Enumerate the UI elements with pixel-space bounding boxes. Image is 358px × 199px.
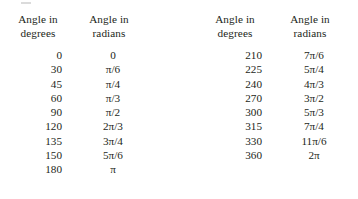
column-header-degrees: Angle in degrees	[6, 12, 70, 42]
table-row: 30 π/6	[6, 62, 158, 76]
table-row: 225 5π/4	[200, 62, 358, 76]
cell-degrees: 360	[200, 148, 270, 162]
cell-radians: π	[70, 162, 156, 176]
column-header-radians: Angle in radians	[70, 12, 148, 42]
table-row: 315 7π/4	[200, 119, 358, 133]
cell-radians: 2π/3	[70, 119, 156, 133]
cell-radians: π/4	[70, 77, 156, 91]
cell-degrees: 315	[200, 119, 270, 133]
column-header-degrees-line2: degrees	[200, 26, 270, 40]
cell-radians: 3π/4	[70, 134, 156, 148]
cell-degrees: 180	[6, 162, 70, 176]
table-body-left: 0 0 30 π/6 45 π/4 60 π/3 90 π/2 120 2π/3	[6, 48, 158, 177]
cell-degrees: 60	[6, 91, 70, 105]
column-header-radians-line2: radians	[270, 26, 350, 40]
column-header-degrees-line2: degrees	[6, 26, 70, 40]
header-row: Angle in degrees Angle in radians	[200, 12, 358, 42]
cell-radians: 5π/3	[270, 105, 358, 119]
cell-radians: 4π/3	[270, 77, 358, 91]
cell-degrees: 120	[6, 119, 70, 133]
column-header-radians-line2: radians	[70, 26, 148, 40]
table-row: 270 3π/2	[200, 91, 358, 105]
cell-radians: 7π/6	[270, 48, 358, 62]
table-row: 45 π/4	[6, 77, 158, 91]
table-row: 120 2π/3	[6, 119, 158, 133]
cell-radians: 2π	[270, 148, 358, 162]
table-block-left: Angle in degrees Angle in radians 0 0 30…	[6, 12, 158, 177]
table-block-right: Angle in degrees Angle in radians 210 7π…	[200, 12, 358, 162]
column-header-radians-line1: Angle in	[70, 12, 148, 26]
cell-radians: 0	[70, 48, 156, 62]
cell-degrees: 150	[6, 148, 70, 162]
cell-radians: 5π/6	[70, 148, 156, 162]
table-row: 360 2π	[200, 148, 358, 162]
cell-radians: π/2	[70, 105, 156, 119]
cell-degrees: 210	[200, 48, 270, 62]
table-row: 180 π	[6, 162, 158, 176]
cell-degrees: 330	[200, 134, 270, 148]
table-row: 150 5π/6	[6, 148, 158, 162]
column-header-degrees-line1: Angle in	[200, 12, 270, 26]
header-row: Angle in degrees Angle in radians	[6, 12, 158, 42]
cell-radians: π/6	[70, 62, 156, 76]
column-header-radians-line1: Angle in	[270, 12, 350, 26]
table-row: 300 5π/3	[200, 105, 358, 119]
table-row: 90 π/2	[6, 105, 158, 119]
table-row: 135 3π/4	[6, 134, 158, 148]
cell-radians: π/3	[70, 91, 156, 105]
cell-degrees: 240	[200, 77, 270, 91]
cell-radians: 5π/4	[270, 62, 358, 76]
cell-degrees: 90	[6, 105, 70, 119]
cell-degrees: 45	[6, 77, 70, 91]
column-header-radians: Angle in radians	[270, 12, 350, 42]
table-row: 0 0	[6, 48, 158, 62]
angle-conversion-table: Angle in degrees Angle in radians 0 0 30…	[0, 0, 358, 199]
cell-degrees: 225	[200, 62, 270, 76]
table-row: 60 π/3	[6, 91, 158, 105]
cell-radians: 11π/6	[270, 134, 358, 148]
column-header-degrees-line1: Angle in	[6, 12, 70, 26]
cell-radians: 7π/4	[270, 119, 358, 133]
cell-degrees: 300	[200, 105, 270, 119]
cell-degrees: 270	[200, 91, 270, 105]
cell-degrees: 0	[6, 48, 70, 62]
table-row: 240 4π/3	[200, 77, 358, 91]
column-header-degrees: Angle in degrees	[200, 12, 270, 42]
table-body-right: 210 7π/6 225 5π/4 240 4π/3 270 3π/2 300 …	[200, 48, 358, 162]
table-row: 330 11π/6	[200, 134, 358, 148]
cell-degrees: 135	[6, 134, 70, 148]
cell-radians: 3π/2	[270, 91, 358, 105]
table-row: 210 7π/6	[200, 48, 358, 62]
cell-degrees: 30	[6, 62, 70, 76]
